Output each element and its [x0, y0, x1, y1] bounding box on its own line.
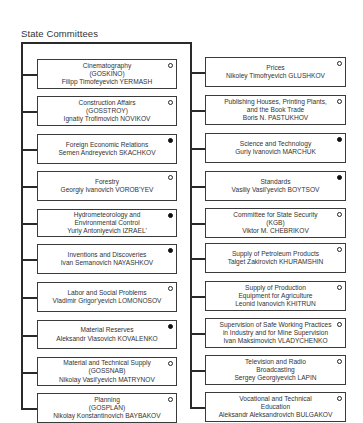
branch-connector-line [190, 296, 205, 298]
open-circle-icon [337, 285, 342, 290]
committee-name-line: Foreign Economic Relations [66, 141, 148, 149]
branch-connector-line [21, 408, 37, 410]
branch-connector-line [21, 259, 37, 261]
chairman-name: Nikoley Timofryevich GLUSHKOV [226, 72, 325, 80]
committee-box: Foreign Economic RelationsSemen Andreyev… [37, 134, 177, 164]
committee-name-line: Material Reserves [80, 326, 133, 334]
committee-box: Supply of ProductionEquipment for Agricu… [205, 281, 346, 311]
committee-name-line: (GOSKINO) [89, 70, 124, 78]
branch-connector-line [21, 74, 37, 76]
committee-box: Science and TechnologyGuriy Ivanovich MA… [205, 133, 346, 163]
committee-name-line: Planning [94, 396, 120, 404]
branch-connector-line [21, 297, 37, 299]
chairman-name: Filipp Timofeyevich YERMASH [62, 78, 152, 86]
branch-connector-line [21, 335, 37, 337]
committee-box: Material and Technical Supply(GOSSNAB)Ni… [37, 357, 177, 386]
committee-box: Construction Affairs(GOSSTROY)Ignatiy Tr… [37, 96, 177, 126]
open-circle-icon [337, 61, 342, 66]
chairman-name: Yuriy Antoniyevich IZRAEL' [67, 227, 147, 235]
committee-name-line: Standards [260, 178, 290, 186]
open-circle-icon [168, 286, 173, 291]
committee-name-line: in Industry and for Mine Supervision [223, 329, 328, 337]
committee-box: Publishing Houses, Printing Plants,and t… [205, 95, 346, 125]
committee-name-line: Inventions and Discoveries [68, 251, 147, 259]
committee-box: ForestryGeorgiy Ivanovich VOROB'YEV [37, 171, 177, 201]
committee-name-line: Committee for State Security [233, 211, 317, 219]
committee-box: Supervision of Safe Working Practicesin … [205, 318, 346, 348]
chairman-name: Boris N. PASTUKHOV [243, 114, 308, 122]
left-trunk-line [21, 42, 23, 408]
committee-name-line: Equipment for Agriculture [238, 292, 312, 300]
committee-box: Hydrometeorology andEnvironmental Contro… [37, 209, 177, 237]
committee-name-line: Supervision of Safe Working Practices [219, 321, 331, 329]
open-circle-icon [337, 99, 342, 104]
branch-connector-line [21, 111, 37, 113]
filled-circle-icon [168, 213, 173, 218]
open-circle-icon [337, 212, 342, 217]
right-trunk-line [190, 42, 192, 407]
branch-connector-line [190, 72, 205, 74]
committee-name-line: (GOSSNAB) [88, 367, 125, 375]
chairman-name: Aleksandr Aleksandrovich BULGAKOV [219, 411, 333, 419]
chairman-name: Guriy Ivanovich MARCHUK [235, 148, 316, 156]
filled-circle-icon [168, 324, 173, 329]
branch-connector-line [190, 258, 205, 260]
chairman-name: Aleksandr Vlasovich KOVALENKO [56, 335, 157, 343]
diagram-title: State Committees [21, 28, 98, 39]
branch-connector-line [21, 372, 37, 374]
open-circle-icon [168, 100, 173, 105]
committee-box: Planning(GOSPLAN)Nikolay Konstantinovich… [37, 393, 177, 423]
committee-box: Vocational and TechnicalEducationAleksan… [205, 392, 346, 422]
committee-name-line: (KGB) [266, 219, 284, 227]
branch-connector-line [21, 149, 37, 151]
open-circle-icon [337, 359, 342, 364]
branch-connector-line [21, 223, 37, 225]
committee-name-line: Science and Technology [240, 140, 311, 148]
filled-circle-icon [337, 137, 342, 142]
committee-name-line: Education [261, 403, 290, 411]
committee-name-line: Forestry [95, 178, 119, 186]
committee-name-line: Prices [266, 64, 284, 72]
committee-name-line: and the Book Trade [247, 106, 305, 114]
committee-box: PricesNikoley Timofryevich GLUSHKOV [205, 57, 346, 87]
open-circle-icon [337, 396, 342, 401]
branch-connector-line [190, 186, 205, 188]
committee-box: Committee for State Security(KGB)Viktor … [205, 208, 346, 238]
committee-name-line: Television and Radio [245, 358, 306, 366]
branch-connector-line [21, 186, 37, 188]
open-circle-icon [337, 247, 342, 252]
chairman-name: Vladimir Grigor'yevich LOMONOSOV [53, 297, 162, 305]
committee-name-line: Broadcasting [256, 366, 295, 374]
filled-circle-icon [168, 248, 173, 253]
chairman-name: Vasiliy Vasil'yevich BOYTSOV [232, 186, 320, 194]
open-circle-icon [168, 397, 173, 402]
open-circle-icon [168, 361, 173, 366]
committee-name-line: Cinematography [83, 62, 131, 70]
chairman-name: Semen Andreyevich SKACHKOV [58, 149, 155, 157]
filled-circle-icon [168, 138, 173, 143]
committee-box: Cinematography(GOSKINO)Filipp Timofeyevi… [37, 59, 177, 89]
committee-box: Supply of Petroleum ProductsTalget Zakir… [205, 243, 346, 273]
filled-circle-icon [337, 175, 342, 180]
chairman-name: Ivan Maksimovich VLADYCHENKO [223, 337, 327, 345]
branch-connector-line [190, 148, 205, 150]
committee-box: Television and RadioBroadcastingSergey G… [205, 355, 346, 385]
committee-name-line: Supply of Petroleum Products [232, 250, 319, 258]
chairman-name: Leonid Ivanovich KHITRUN [235, 300, 316, 308]
committee-name-line: Construction Affairs [78, 99, 135, 107]
open-circle-icon [337, 322, 342, 327]
chairman-name: Ivan Semanovich NAYASHKOV [61, 259, 153, 267]
branch-connector-line [190, 333, 205, 335]
committee-box: Labor and Social ProblemsVladimir Grigor… [37, 282, 177, 312]
branch-connector-line [190, 370, 205, 372]
branch-connector-line [190, 407, 205, 409]
committee-name-line: Supply of Production [245, 284, 306, 292]
committee-name-line: Publishing Houses, Printing Plants, [224, 98, 327, 106]
branch-connector-line [190, 110, 205, 112]
chairman-name: Ignatiy Trofimovich NOVIKOV [64, 115, 151, 123]
branch-connector-line [190, 223, 205, 225]
committee-box: Inventions and DiscoveriesIvan Semanovic… [37, 244, 177, 274]
open-circle-icon [168, 63, 173, 68]
committee-name-line: (GOSPLAN) [89, 404, 125, 412]
chairman-name: Viktor M. CHEBRIKOV [242, 227, 309, 235]
